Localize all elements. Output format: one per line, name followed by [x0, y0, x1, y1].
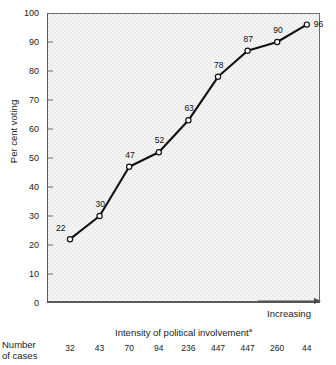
number-of-cases-value: 70 [114, 344, 144, 353]
x-axis-title-text: Intensity of political involvement [115, 327, 249, 338]
number-of-cases-value: 43 [85, 344, 115, 353]
data-point-marker [127, 164, 132, 169]
data-point-label: 63 [184, 104, 193, 113]
data-point-marker [67, 237, 72, 242]
data-point-label: 96 [314, 20, 323, 29]
number-of-cases-value: 44 [292, 344, 322, 353]
increasing-annotation: Increasing [248, 308, 330, 319]
number-of-cases-value: 260 [262, 344, 292, 353]
number-of-cases-caption-line1: Number [2, 339, 48, 350]
data-point-marker [186, 118, 191, 123]
data-point-marker [304, 22, 309, 27]
data-point-label: 30 [96, 200, 105, 209]
data-point-marker [97, 213, 102, 218]
number-of-cases-value: 447 [233, 344, 263, 353]
data-point-label: 22 [56, 224, 65, 233]
data-point-label: 47 [125, 151, 134, 160]
data-point-label: 87 [244, 35, 253, 44]
increasing-arrow-icon [258, 298, 321, 304]
data-point-marker [275, 39, 280, 44]
number-of-cases-value: 94 [144, 344, 174, 353]
data-point-label: 90 [273, 26, 282, 35]
x-axis-title: Intensity of political involvementa [47, 327, 320, 338]
series-line [70, 25, 307, 240]
number-of-cases-value: 447 [203, 344, 233, 353]
y-axis-tick-marks [47, 42, 53, 274]
number-of-cases-caption: Number of cases [2, 339, 48, 361]
data-point-label: 78 [214, 61, 223, 70]
number-of-cases-caption-line2: of cases [2, 350, 48, 361]
data-point-marker [215, 74, 220, 79]
data-point-marker [156, 150, 161, 155]
x-axis-title-footnote: a [249, 327, 252, 333]
chart-figure: 0102030405060708090100 Per cent voting 2… [0, 0, 336, 365]
data-point-marker [245, 48, 250, 53]
number-of-cases-value: 32 [55, 344, 85, 353]
data-point-label: 52 [155, 136, 164, 145]
number-of-cases-value: 236 [173, 344, 203, 353]
